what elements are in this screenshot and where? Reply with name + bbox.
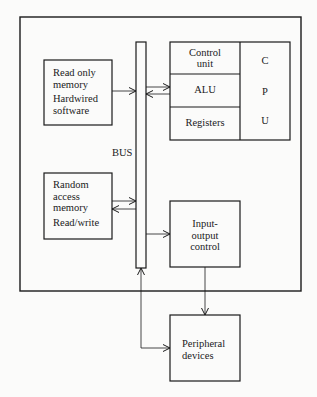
- rom-label-line: Read only: [53, 67, 98, 79]
- control-unit-line: unit: [170, 58, 240, 69]
- rom-label-line: software: [53, 105, 98, 117]
- cpu-letter-c: C: [240, 55, 290, 67]
- ram-label-line: memory: [53, 202, 99, 214]
- alu-label: ALU: [170, 84, 240, 96]
- bus-label: BUS: [112, 147, 132, 159]
- rom-label: Read only memory Hardwired software: [53, 67, 98, 117]
- rom-label-line: memory: [53, 79, 98, 91]
- io-label-line: Input-: [170, 218, 240, 230]
- ram-label-line: access: [53, 191, 99, 203]
- io-label-line: output: [170, 230, 240, 242]
- ram-label-line: Random: [53, 179, 99, 191]
- peripheral-label-line: devices: [182, 350, 225, 362]
- io-label-line: control: [170, 241, 240, 253]
- control-unit-line: Control: [170, 47, 240, 58]
- cpu-letter-p: P: [240, 86, 290, 98]
- registers-label: Registers: [170, 117, 240, 129]
- peripheral-label-line: Peripheral: [182, 338, 225, 350]
- peripheral-label: Peripheral devices: [182, 338, 225, 361]
- rom-label-line: Hardwired: [53, 93, 98, 105]
- ram-label: Random access memory Read/write: [53, 179, 99, 228]
- io-label: Input- output control: [170, 218, 240, 253]
- ram-label-line: Read/write: [53, 217, 99, 229]
- control-unit-label: Control unit: [170, 47, 240, 69]
- bus-bar: [136, 42, 146, 268]
- cpu-letter-u: U: [240, 115, 290, 127]
